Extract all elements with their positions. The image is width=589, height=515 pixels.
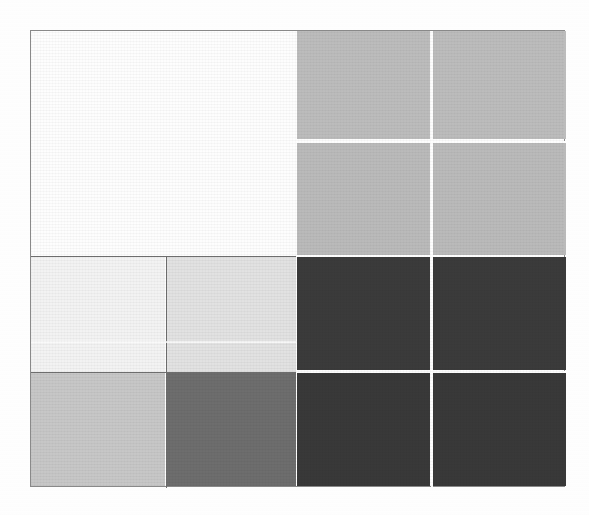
plot-frame [30, 30, 565, 487]
mosaic-cell-r4c1 [31, 373, 165, 486]
divider-v-right [431, 31, 433, 488]
mosaic-cell-r4c3 [297, 372, 430, 486]
mosaic-cell-r3c2 [167, 257, 296, 372]
divider-h-mid [31, 256, 296, 257]
mosaic-cell-r2c4 [432, 143, 566, 255]
divider-h-top-right [297, 141, 566, 143]
divider-h-faint [31, 341, 296, 343]
mosaic-cell-r2c3 [297, 143, 430, 255]
mosaic-cell-r3c1 [31, 257, 165, 372]
divider-h-low-right [297, 371, 566, 373]
mosaic-cell-r3c4 [432, 257, 566, 370]
mosaic-cell-r3c3 [297, 257, 430, 370]
mosaic-cell-r1c4 [432, 31, 566, 139]
mosaic-cell-r4c2 [167, 373, 296, 486]
mosaic-cell-r1c3 [297, 31, 430, 139]
mosaic-cell-r1c12 [31, 31, 296, 255]
figure-canvas [0, 0, 589, 515]
mosaic-cell-layer [31, 31, 564, 486]
divider-h-low [31, 372, 296, 373]
mosaic-cell-r4c4 [432, 372, 566, 486]
